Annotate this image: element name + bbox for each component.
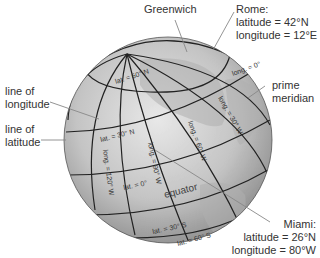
rome-latitude: latitude = 42°N bbox=[236, 16, 317, 29]
miami-longitude: longitude = 80°W bbox=[212, 244, 316, 257]
rome-leader bbox=[213, 12, 234, 50]
miami-latitude: latitude = 26°N bbox=[222, 231, 316, 244]
line-of-latitude-callout: line of latitude bbox=[5, 123, 40, 149]
latitude-callout-line2: latitude bbox=[5, 136, 40, 149]
prime-meridian-line2: meridian bbox=[272, 92, 314, 105]
longitude-callout-line2: longitude bbox=[5, 98, 50, 111]
rome-callout: Rome: latitude = 42°N longitude = 12°E bbox=[236, 3, 317, 42]
rome-title: Rome: bbox=[236, 3, 317, 16]
prime-meridian-callout: prime meridian bbox=[272, 79, 314, 105]
latitude-callout-line1: line of bbox=[5, 123, 40, 136]
line-of-longitude-callout: line of longitude bbox=[5, 85, 50, 111]
prime-meridian-line1: prime bbox=[272, 79, 314, 92]
miami-title: Miami: bbox=[232, 218, 316, 231]
greenwich-callout: Greenwich bbox=[144, 3, 197, 16]
rome-longitude: longitude = 12°E bbox=[236, 29, 317, 42]
longitude-callout-line1: line of bbox=[5, 85, 50, 98]
miami-callout: Miami: latitude = 26°N longitude = 80°W bbox=[232, 218, 316, 257]
